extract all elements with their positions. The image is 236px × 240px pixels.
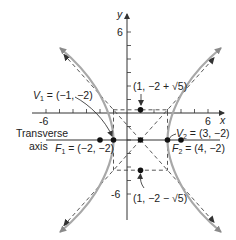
point-center <box>138 137 144 143</box>
leader-bottom <box>140 174 144 188</box>
y-axis-label: y <box>116 8 123 20</box>
y-tick-label-6: 6 <box>117 26 123 38</box>
label-v2: V2 = (3, −2) <box>176 127 230 140</box>
label-transverse-line1: Transverse <box>16 127 68 139</box>
label-bottom-point: (1, −2 − √5) <box>133 192 187 204</box>
label-f2: F2 = (4, −2) <box>172 142 225 155</box>
leader-v1 <box>75 97 112 136</box>
leader-v2 <box>169 134 176 139</box>
point-top <box>138 107 144 113</box>
x-tick-label-6: 6 <box>205 115 211 127</box>
label-v1: V1 = (−1, −2) <box>33 89 93 102</box>
x-axis-label: x <box>219 114 226 126</box>
hyperbola-diagram: y x -6 6 6 -6 V1 <box>0 0 236 240</box>
leader-lines <box>75 94 176 188</box>
label-transverse-line2: axis <box>29 140 48 152</box>
x-tick-label-neg6: -6 <box>39 115 48 127</box>
label-top-point: (1, −2 + √5) <box>133 80 187 92</box>
label-f1: F1 = (−2, −2) <box>55 142 114 155</box>
point-bottom <box>138 167 144 173</box>
y-tick-label-neg6: -6 <box>111 188 120 200</box>
axes: y x -6 6 6 -6 <box>32 8 226 220</box>
